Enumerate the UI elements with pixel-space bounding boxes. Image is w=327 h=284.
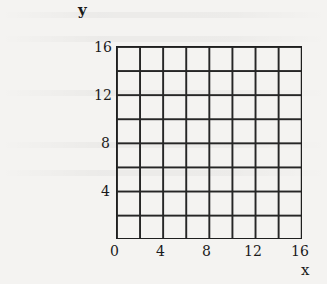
x-tick-8: 8 <box>202 244 211 258</box>
y-axis-label: y <box>78 3 87 18</box>
y-tick-4: 4 <box>101 184 110 198</box>
x-axis-label: x <box>301 263 309 278</box>
y-tick-12: 12 <box>94 88 112 102</box>
bleed-through-text <box>0 12 327 18</box>
coordinate-grid <box>116 46 302 239</box>
bleed-through-text <box>0 36 327 42</box>
x-tick-4: 4 <box>156 244 165 258</box>
y-tick-8: 8 <box>101 136 110 150</box>
x-tick-0: 0 <box>110 244 119 258</box>
x-tick-16: 16 <box>291 244 309 258</box>
x-tick-12: 12 <box>244 244 262 258</box>
y-tick-16: 16 <box>94 40 112 54</box>
